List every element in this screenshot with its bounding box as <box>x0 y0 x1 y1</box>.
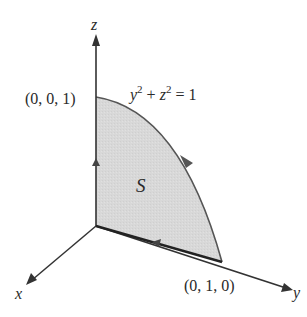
x-axis <box>32 226 96 280</box>
x-axis-arrow-icon <box>26 273 37 285</box>
point-label-right: (0, 1, 0) <box>184 277 235 295</box>
surface-region <box>96 97 222 262</box>
curve-equation: y2 + z2 = 1 <box>128 83 196 104</box>
y-axis-label: y <box>291 284 301 302</box>
point-label-top: (0, 0, 1) <box>25 90 76 108</box>
diagram-canvas: z y x (0, 0, 1) (0, 1, 0) y2 + z2 = 1 S <box>0 0 307 317</box>
z-axis-label: z <box>90 16 98 33</box>
y-axis-arrow-icon <box>281 283 293 292</box>
surface-label: S <box>136 175 146 196</box>
surface-diagram: z y x (0, 0, 1) (0, 1, 0) y2 + z2 = 1 S <box>0 0 307 317</box>
z-axis-arrow-icon <box>92 34 100 46</box>
x-axis-label: x <box>14 285 22 302</box>
